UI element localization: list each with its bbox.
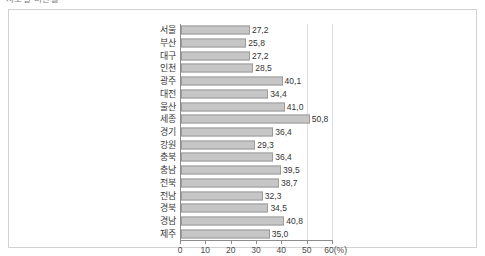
category-label: 전남	[160, 191, 176, 201]
bar	[181, 140, 255, 149]
x-tick-mark	[180, 241, 181, 244]
bar	[181, 39, 246, 48]
category-label: 울산	[160, 102, 176, 112]
x-tick-mark	[256, 241, 257, 244]
x-tick-label: 50	[302, 245, 311, 255]
caption-text: 시도별 비만율	[6, 0, 206, 5]
category-label: 경기	[160, 127, 176, 137]
bar-row: 강원29,3	[180, 138, 332, 151]
value-label: 36,4	[275, 127, 292, 137]
category-label: 세종	[160, 114, 176, 124]
x-tick-label: 20	[226, 245, 235, 255]
bar	[181, 178, 279, 187]
bar-row: 충남39,5	[180, 164, 332, 177]
bar	[181, 115, 310, 124]
value-label: 27,2	[252, 25, 269, 35]
value-label: 50,8	[312, 114, 329, 124]
chart-screenshot: 시도별 비만율 서울27,2부산25,8대구27,2인천28,5광주40,1대전…	[0, 0, 485, 256]
bar-row: 경북34,5	[180, 202, 332, 215]
y-axis-line	[180, 24, 181, 240]
value-label: 40,1	[285, 76, 302, 86]
bar	[181, 166, 281, 175]
bar-row: 전북38,7	[180, 176, 332, 189]
category-label: 경북	[160, 203, 176, 213]
category-label: 대구	[160, 51, 176, 61]
bar	[181, 102, 285, 111]
bar-row: 전남32,3	[180, 189, 332, 202]
x-tick-mark	[205, 241, 206, 244]
bar	[181, 229, 270, 238]
value-label: 28,5	[255, 63, 272, 73]
category-label: 충북	[160, 152, 176, 162]
bar-row: 서울27,2	[180, 24, 332, 37]
bar-row: 충북36,4	[180, 151, 332, 164]
x-tick-mark	[281, 241, 282, 244]
plot-area: 서울27,2부산25,8대구27,2인천28,5광주40,1대전34,4울산41…	[180, 24, 332, 240]
category-label: 충남	[160, 165, 176, 175]
category-label: 경남	[160, 216, 176, 226]
bar	[181, 77, 283, 86]
bar-row: 경남40,8	[180, 215, 332, 228]
value-label: 29,3	[257, 140, 274, 150]
category-label: 대전	[160, 89, 176, 99]
bar	[181, 64, 253, 73]
caption-clipped: 시도별 비만율	[6, 0, 206, 6]
bar-row: 울산41,0	[180, 100, 332, 113]
bar	[181, 89, 268, 98]
bar	[181, 153, 273, 162]
value-label: 34,5	[270, 203, 287, 213]
value-label: 27,2	[252, 51, 269, 61]
x-tick-mark	[332, 241, 333, 244]
category-label: 서울	[160, 25, 176, 35]
category-label: 광주	[160, 76, 176, 86]
bar-row: 부산25,8	[180, 37, 332, 50]
x-tick-mark	[231, 241, 232, 244]
category-label: 제주	[160, 229, 176, 239]
value-label: 32,3	[265, 191, 282, 201]
category-label: 전북	[160, 178, 176, 188]
bar	[181, 204, 268, 213]
x-tick-label: 10	[201, 245, 210, 255]
value-label: 36,4	[275, 152, 292, 162]
gridline	[332, 24, 333, 240]
bar-row: 광주40,1	[180, 75, 332, 88]
category-label: 강원	[160, 140, 176, 150]
bar-row: 제주35,0	[180, 227, 332, 240]
category-label: 부산	[160, 38, 176, 48]
bar	[181, 51, 250, 60]
chart-frame: 서울27,2부산25,8대구27,2인천28,5광주40,1대전34,4울산41…	[8, 9, 477, 248]
x-tick-label: 0	[178, 245, 183, 255]
bar-row: 인천28,5	[180, 62, 332, 75]
value-label: 25,8	[248, 38, 265, 48]
bar-row: 세종50,8	[180, 113, 332, 126]
bar-row: 대전34,4	[180, 88, 332, 101]
value-label: 38,7	[281, 178, 298, 188]
x-tick-mark	[307, 241, 308, 244]
x-tick-label: 30	[251, 245, 260, 255]
bar	[181, 127, 273, 136]
bar	[181, 216, 284, 225]
bar-row: 대구27,2	[180, 49, 332, 62]
value-label: 39,5	[283, 165, 300, 175]
bar	[181, 191, 263, 200]
value-label: 34,4	[270, 89, 287, 99]
value-label: 41,0	[287, 102, 304, 112]
category-label: 인천	[160, 63, 176, 73]
x-tick-label: 40	[277, 245, 286, 255]
bar	[181, 26, 250, 35]
value-label: 40,8	[286, 216, 303, 226]
bar-row: 경기36,4	[180, 126, 332, 139]
x-tick-label: 60(%)	[324, 245, 347, 255]
value-label: 35,0	[272, 229, 289, 239]
